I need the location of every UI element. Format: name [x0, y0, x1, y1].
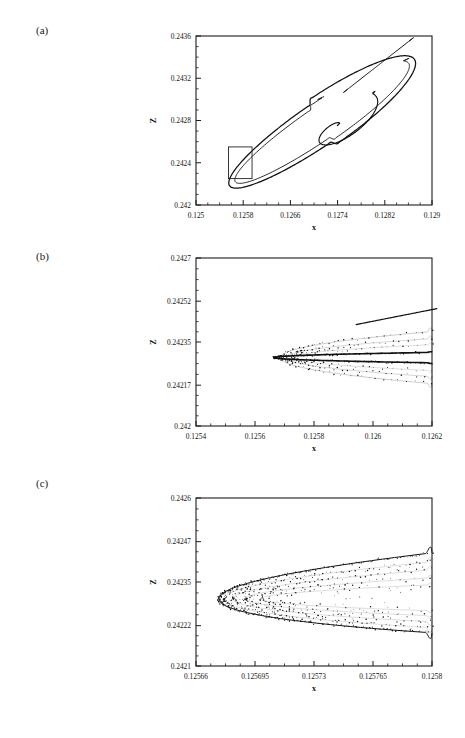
x-tick-label: 0.1262: [422, 432, 443, 441]
x-tick-label: 0.125695: [241, 672, 269, 681]
fold-filament-speckle: [291, 343, 434, 371]
y-axis-title: Z: [149, 579, 158, 584]
fold-filament-speckle: [285, 338, 433, 377]
y-tick-label: 0.24235: [167, 338, 191, 347]
x-tick-label: 0.1256: [245, 432, 266, 441]
panel-c-plot: 0.125660.1256950.125730.1257650.12580.24…: [0, 470, 465, 710]
x-tick-label: 0.125765: [359, 672, 387, 681]
attractor-second-sheet: [235, 58, 410, 183]
x-tick-label: 0.129: [424, 211, 441, 220]
x-tick-label: 0.1258: [233, 211, 254, 220]
plot-frame: [196, 498, 432, 666]
panel-a-plot: 0.1250.12580.12660.12740.12820.1290.2420…: [0, 0, 465, 240]
x-axis-title: x: [312, 444, 316, 453]
fractal-sheet: [224, 557, 432, 633]
x-axis-title: x: [312, 223, 316, 232]
x-tick-label: 0.12566: [184, 672, 208, 681]
y-tick-label: 0.2426: [171, 494, 192, 503]
fractal-sheet-speckle: [217, 552, 434, 632]
x-tick-label: 0.1254: [186, 432, 207, 441]
y-tick-label: 0.2436: [171, 32, 192, 41]
fractal-sheet-speckle: [223, 559, 434, 628]
fold-upper-exit: [356, 309, 437, 325]
x-axis-title: x: [312, 684, 316, 693]
panel-a-svg: 0.1250.12580.12660.12740.12820.1290.2420…: [0, 0, 465, 240]
x-tick-label: 0.126: [365, 432, 382, 441]
fractal-sheet: [261, 583, 432, 613]
fractal-sheet-primary: [219, 547, 432, 639]
y-tick-label: 0.24247: [167, 537, 191, 546]
attractor-inner-scroll: [319, 91, 378, 145]
x-tick-label: 0.125: [188, 211, 205, 220]
fold-filament: [280, 328, 432, 387]
y-tick-label: 0.24252: [167, 297, 191, 306]
fold-filament: [286, 336, 432, 379]
y-tick-label: 0.24235: [167, 578, 191, 587]
y-tick-label: 0.24222: [167, 621, 191, 630]
x-tick-label: 0.1258: [422, 672, 443, 681]
attractor-tail: [343, 38, 413, 93]
fold-filament: [292, 343, 432, 373]
y-tick-label: 0.242: [174, 201, 191, 210]
y-tick-label: 0.2432: [171, 74, 192, 83]
panel-b-svg: 0.12540.12560.12580.1260.12620.2420.2421…: [0, 240, 465, 470]
attractor-outer-loop: [229, 56, 416, 188]
panel-c-svg: 0.125660.1256950.125730.1257650.12580.24…: [0, 470, 465, 710]
y-tick-label: 0.2424: [171, 159, 192, 168]
y-tick-label: 0.242: [174, 422, 191, 431]
plot-frame: [196, 36, 432, 205]
x-tick-label: 0.1258: [304, 432, 325, 441]
x-tick-label: 0.1274: [327, 211, 348, 220]
panel-b-plot: 0.12540.12560.12580.1260.12620.2420.2421…: [0, 240, 465, 470]
y-axis-title: Z: [149, 118, 158, 123]
x-tick-label: 0.1282: [375, 211, 396, 220]
y-axis-title: Z: [149, 339, 158, 344]
x-tick-label: 0.1266: [280, 211, 301, 220]
y-tick-label: 0.2427: [171, 254, 192, 263]
x-tick-label: 0.12573: [302, 672, 326, 681]
y-tick-label: 0.24217: [167, 381, 191, 390]
plot-frame: [196, 258, 432, 426]
y-tick-label: 0.2421: [171, 662, 192, 671]
y-tick-label: 0.2428: [171, 116, 192, 125]
